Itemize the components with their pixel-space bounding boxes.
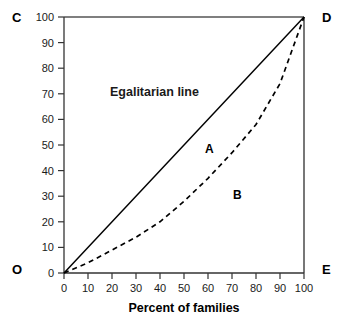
corner-label-o: O <box>12 262 22 277</box>
corner-label-d: D <box>322 10 331 25</box>
y-tick-label-100: 100 <box>36 11 54 23</box>
y-tick-label-20: 20 <box>42 216 54 228</box>
y-tick-label-50: 50 <box>42 139 54 151</box>
x-tick-label-40: 40 <box>154 282 166 294</box>
y-tick-label-70: 70 <box>42 88 54 100</box>
y-tick-label-40: 40 <box>42 165 54 177</box>
x-tick-label-60: 60 <box>202 282 214 294</box>
x-tick-label-0: 0 <box>61 282 67 294</box>
egalitarian-line <box>64 17 304 273</box>
x-axis-title: Percent of families <box>128 301 239 315</box>
y-tick-label-0: 0 <box>48 267 54 279</box>
x-tick-label-50: 50 <box>178 282 190 294</box>
y-tick-label-90: 90 <box>42 37 54 49</box>
y-tick-label-60: 60 <box>42 113 54 125</box>
x-tick-label-90: 90 <box>274 282 286 294</box>
chart-canvas: 100 90 80 70 60 50 40 30 20 10 0 0 10 20… <box>0 0 346 325</box>
x-tick-label-70: 70 <box>226 282 238 294</box>
x-tick-label-80: 80 <box>250 282 262 294</box>
x-tick-label-10: 10 <box>82 282 94 294</box>
x-tick-label-30: 30 <box>130 282 142 294</box>
corner-label-e: E <box>322 262 331 277</box>
y-tick-label-80: 80 <box>42 62 54 74</box>
x-tick-label-100: 100 <box>295 282 313 294</box>
corner-label-c: C <box>12 10 22 25</box>
y-tick-label-30: 30 <box>42 190 54 202</box>
x-tick-label-20: 20 <box>106 282 118 294</box>
region-label-a: A <box>205 142 214 156</box>
egalitarian-line-label: Egalitarian line <box>110 85 199 99</box>
region-label-b: B <box>233 188 242 202</box>
lorenz-curve-figure: 100 90 80 70 60 50 40 30 20 10 0 0 10 20… <box>0 0 346 325</box>
y-tick-label-10: 10 <box>42 241 54 253</box>
